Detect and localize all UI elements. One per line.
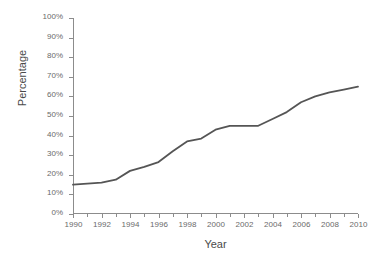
x-tick-label: 1998 [179, 220, 197, 229]
y-tick-label: 10% [47, 188, 63, 197]
x-tick-major: 1990 [73, 214, 74, 218]
x-tick-major: 2000 [216, 214, 217, 218]
y-tick-label: 30% [47, 149, 63, 158]
x-tick-major: 2008 [330, 214, 331, 218]
x-tick-label: 1992 [93, 220, 111, 229]
x-tick-minor [87, 214, 88, 217]
x-tick-major: 1994 [130, 214, 131, 218]
x-tick-minor [258, 214, 259, 217]
line-series [73, 18, 358, 214]
x-tick-label: 2004 [264, 220, 282, 229]
y-tick-label: 70% [47, 71, 63, 80]
x-tick-minor [116, 214, 117, 217]
x-tick-major: 1992 [102, 214, 103, 218]
x-tick-label: 2000 [207, 220, 225, 229]
x-tick-minor [201, 214, 202, 217]
x-tick-major: 2010 [358, 214, 359, 218]
x-tick-label: 1996 [150, 220, 168, 229]
y-tick-label: 0% [51, 208, 63, 217]
x-tick-label: 2008 [321, 220, 339, 229]
y-tick-label: 50% [47, 110, 63, 119]
y-tick-label: 60% [47, 90, 63, 99]
x-tick-major: 2006 [301, 214, 302, 218]
chart-figure: Percentage Year 0%10%20%30%40%50%60%70%8… [0, 0, 376, 259]
x-axis-title: Year [73, 238, 358, 250]
y-tick-label: 90% [47, 32, 63, 41]
x-tick-major: 1996 [159, 214, 160, 218]
y-tick-label: 40% [47, 130, 63, 139]
x-tick-major: 1998 [187, 214, 188, 218]
y-tick-label: 80% [47, 51, 63, 60]
x-tick-label: 2002 [236, 220, 254, 229]
x-tick-minor [173, 214, 174, 217]
x-tick-minor [230, 214, 231, 217]
x-tick-minor [315, 214, 316, 217]
x-tick-minor [344, 214, 345, 217]
y-tick-label: 100% [43, 12, 63, 21]
plot-area: 0%10%20%30%40%50%60%70%80%90%100% 199019… [73, 18, 358, 214]
x-tick-label: 1990 [65, 220, 83, 229]
x-tick-minor [287, 214, 288, 217]
y-axis-title: Percentage [16, 8, 28, 148]
x-tick-major: 2004 [273, 214, 274, 218]
series-line-percentage [73, 87, 358, 185]
x-tick-label: 1994 [122, 220, 140, 229]
y-tick-label: 20% [47, 169, 63, 178]
x-tick-minor [144, 214, 145, 217]
x-tick-label: 2006 [293, 220, 311, 229]
x-tick-major: 2002 [244, 214, 245, 218]
x-tick-label: 2010 [350, 220, 368, 229]
